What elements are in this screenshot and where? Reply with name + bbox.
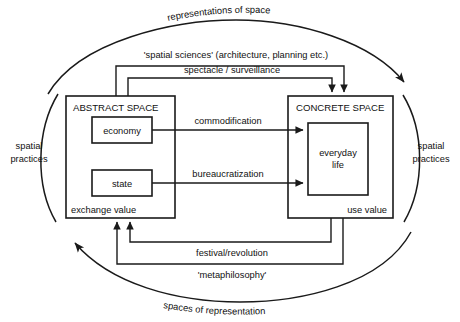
connector-festival-revolution [130, 218, 331, 242]
right-spatial-practices-label-line2: practices [412, 154, 450, 164]
connector-label-commodification: commodification [194, 116, 261, 126]
connector-label-spectacle-surveillance: spectacle / surveillance [184, 65, 280, 75]
concrete-space-footer: use value [347, 205, 387, 215]
concrete-space-title: CONCRETE SPACE [296, 102, 384, 113]
diagram-canvas: representations of space spaces of repre… [0, 0, 460, 322]
economy-label: economy [103, 126, 141, 136]
everyday-life-label-line1: everyday [319, 148, 357, 158]
left-spatial-practices-label-line2: practices [10, 154, 48, 164]
connector-label-bureaucratization: bureaucratization [192, 169, 263, 179]
abstract-space-title: ABSTRACT SPACE [73, 102, 158, 113]
lefebvre-space-diagram: representations of space spaces of repre… [0, 0, 460, 322]
abstract-space-box [66, 96, 175, 218]
connector-label-metaphilosophy: 'metaphilosophy' [198, 270, 267, 280]
connector-label-spatial-sciences: 'spatial sciences' (architecture, planni… [144, 50, 328, 60]
everyday-life-label-line2: life [332, 160, 344, 170]
state-label: state [112, 179, 132, 189]
everyday-life-box [308, 123, 368, 195]
connector-spectacle-surveillance [128, 78, 332, 96]
right-spatial-practices-label-line1: spatial [418, 141, 445, 151]
abstract-space-footer: exchange value [71, 205, 136, 215]
connector-label-festival-revolution: festival/revolution [196, 248, 268, 258]
left-spatial-practices-label-line1: spatial [16, 141, 43, 151]
